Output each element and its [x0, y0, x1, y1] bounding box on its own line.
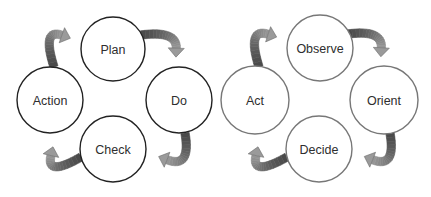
arrow-band-segment: [182, 141, 191, 145]
node-plan: Plan: [81, 17, 145, 81]
arrowhead: [43, 147, 59, 158]
pdca-arrow-3: [43, 147, 83, 171]
node-act: Act: [221, 66, 289, 134]
decide-label: Decide: [300, 143, 339, 157]
pdca-arrow-4: [45, 28, 70, 69]
pdca-arrow-1: [140, 30, 184, 57]
action-label: Action: [33, 94, 68, 108]
ooda-arrow-2: [364, 132, 395, 167]
arrow-band-segment: [356, 29, 360, 38]
arrow-band-segment: [250, 44, 258, 47]
arrow-band-segment: [45, 44, 54, 47]
ooda-arrow-4: [250, 27, 276, 69]
arrow-band-segment: [149, 30, 153, 39]
node-action: Action: [17, 67, 83, 133]
pdca-diagram: Plan Do Check Action: [17, 17, 212, 182]
cycle-diagrams: Plan Do Check Action Observe Orient Deci…: [0, 0, 431, 197]
observe-label: Observe: [296, 42, 343, 56]
arrowhead: [248, 147, 264, 158]
node-orient: Orient: [350, 66, 418, 134]
node-check: Check: [80, 116, 146, 182]
act-label: Act: [246, 94, 265, 108]
node-observe: Observe: [287, 15, 353, 81]
arrowhead: [373, 47, 389, 56]
node-do: Do: [146, 67, 212, 133]
ooda-arrow-1: [347, 29, 389, 57]
arrow-band-segment: [387, 141, 396, 145]
do-label: Do: [171, 94, 187, 108]
arrowhead: [168, 48, 184, 57]
node-decide: Decide: [286, 116, 352, 182]
pdca-arrow-2: [159, 132, 191, 167]
ooda-diagram: Observe Orient Decide Act: [221, 15, 418, 182]
orient-label: Orient: [367, 94, 402, 108]
plan-label: Plan: [100, 43, 125, 57]
ooda-arrow-3: [248, 147, 289, 171]
check-label: Check: [95, 143, 131, 157]
arrow-band-segment: [153, 30, 157, 38]
